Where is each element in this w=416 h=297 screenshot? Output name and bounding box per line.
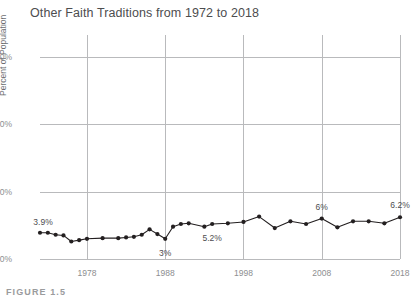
data-point-marker (398, 215, 402, 219)
data-point-annotation: 6.2% (390, 200, 409, 210)
y-axis-tick-label: 20% (0, 119, 12, 129)
data-point-marker (171, 225, 175, 229)
x-axis-tick-label: 2008 (312, 268, 331, 278)
data-point-marker (132, 235, 136, 239)
data-point-marker (140, 233, 144, 237)
data-point-marker (226, 221, 230, 225)
data-point-marker (38, 231, 42, 235)
x-axis-tick-label: 2018 (391, 268, 410, 278)
gridline-vertical (400, 35, 401, 259)
x-axis-tick-label: 1998 (234, 268, 253, 278)
data-point-marker (101, 236, 105, 240)
data-point-annotation: 6% (316, 202, 328, 212)
data-point-marker (351, 219, 355, 223)
data-point-marker (202, 225, 206, 229)
data-point-marker (85, 237, 89, 241)
data-point-marker (61, 233, 65, 237)
data-point-marker (288, 219, 292, 223)
gridline-horizontal (40, 259, 400, 260)
data-point-marker (46, 231, 50, 235)
data-point-marker (304, 222, 308, 226)
data-point-marker (320, 217, 324, 221)
chart-title: Other Faith Traditions from 1972 to 2018 (30, 6, 259, 20)
data-point-annotation: 5.2% (202, 233, 221, 243)
data-point-annotation: 3% (159, 248, 171, 258)
data-point-marker (69, 239, 73, 243)
data-point-marker (335, 225, 339, 229)
data-point-marker (155, 232, 159, 236)
data-point-marker (187, 221, 191, 225)
data-point-annotation: 3.9% (33, 217, 52, 227)
data-point-marker (124, 235, 128, 239)
data-point-marker (257, 214, 261, 218)
y-axis-tick-label: 10% (0, 187, 12, 197)
y-axis-tick-label: 0% (0, 254, 12, 264)
figure-caption: FIGURE 1.5 (6, 287, 66, 297)
data-point-marker (273, 226, 277, 230)
data-point-marker (210, 222, 214, 226)
data-point-marker (147, 227, 151, 231)
line-series (40, 57, 400, 259)
data-point-marker (116, 236, 120, 240)
data-point-marker (54, 233, 58, 237)
plot-area: 3.9%3%5.2%6%6.2% (40, 57, 400, 259)
data-point-marker (241, 220, 245, 224)
y-axis-tick-label: 30% (0, 52, 12, 62)
data-point-marker (163, 237, 167, 241)
data-point-marker (382, 221, 386, 225)
data-point-marker (179, 222, 183, 226)
data-point-marker (367, 219, 371, 223)
data-point-marker (77, 238, 81, 242)
x-axis-tick-label: 1978 (77, 268, 96, 278)
x-axis-tick-label: 1988 (156, 268, 175, 278)
